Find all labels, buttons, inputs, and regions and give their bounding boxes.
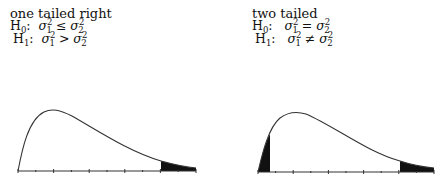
f-distribution-chart <box>0 0 222 184</box>
density-curve <box>258 112 434 172</box>
panel-one-tailed-right: one tailed right H0: σ21 ≤ σ22 H1: σ21 >… <box>0 0 222 184</box>
f-distribution-chart <box>222 0 444 184</box>
density-curve <box>18 110 196 171</box>
panel-two-tailed: two tailed H0: σ21 = σ22 H1: σ21 ≠ σ22 <box>222 0 444 184</box>
